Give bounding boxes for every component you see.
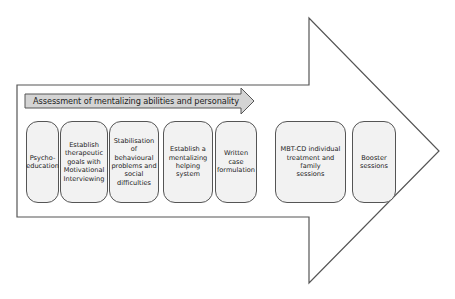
- step-text-line: Establish: [64, 141, 105, 149]
- step-text-line: sessions: [277, 170, 344, 178]
- step-text-line: behavioural: [111, 154, 157, 162]
- assessment-arrow-label: Assessment of mentalizing abilities and …: [25, 94, 247, 108]
- step-text-line: goals with: [64, 158, 105, 166]
- step-text-line: Motivational: [64, 166, 105, 174]
- step-text-line: sessions: [360, 162, 388, 170]
- step-text-line: education: [26, 162, 59, 170]
- step-text-line: MBT-CD individual: [277, 145, 344, 153]
- step-text-line: Stabilisation of: [111, 137, 157, 154]
- step-text-line: helping system: [165, 162, 211, 179]
- step-text-line: therapeutic: [64, 149, 105, 157]
- step-text-line: treatment and family: [277, 154, 344, 171]
- step-mentalizing-helping-system: Establish a mentalizing helping system: [163, 121, 213, 203]
- step-text-line: Written: [217, 149, 255, 157]
- step-mbt-cd-sessions: MBT-CD individual treatment and family s…: [275, 121, 346, 203]
- step-text-line: Establish a: [165, 145, 211, 153]
- step-text-line: Interviewing: [64, 175, 105, 183]
- step-text-line: Psycho-: [26, 154, 59, 162]
- step-text-line: Booster: [360, 154, 388, 162]
- step-text-line: formulation: [217, 166, 255, 174]
- step-text-line: social difficulties: [111, 170, 157, 187]
- step-text-line: mentalizing: [165, 154, 211, 162]
- step-text-line: case: [217, 158, 255, 166]
- step-text-line: problems and: [111, 162, 157, 170]
- step-written-case-formulation: Written case formulation: [215, 121, 257, 203]
- step-stabilisation: Stabilisation of behavioural problems an…: [109, 121, 159, 203]
- step-therapeutic-goals: Establish therapeutic goals with Motivat…: [60, 121, 108, 203]
- step-booster-sessions: Booster sessions: [352, 121, 396, 203]
- step-psycho-education: Psycho- education: [26, 121, 59, 203]
